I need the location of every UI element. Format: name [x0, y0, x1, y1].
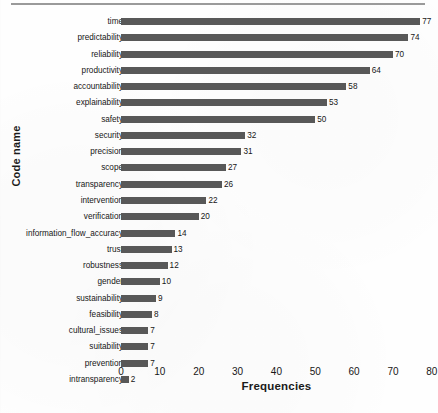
- bar-row: explainability53: [0, 96, 438, 109]
- bar-value-label: 50: [317, 113, 326, 126]
- x-axis-tick-label: 80: [412, 366, 438, 377]
- category-label: explainability: [0, 96, 123, 109]
- bar: [121, 18, 420, 25]
- bar-row: gender10: [0, 275, 438, 288]
- category-label: sustainability: [0, 292, 123, 305]
- bar-row: safety50: [0, 113, 438, 126]
- category-label: productivity: [0, 64, 123, 77]
- bar: [121, 262, 168, 269]
- category-label: robustness: [0, 259, 123, 272]
- bar-value-label: 10: [162, 275, 171, 288]
- plot-area: time77predictability74reliability70produ…: [0, 0, 438, 413]
- bar-row: productivity64: [0, 64, 438, 77]
- bar-row: feasibility8: [0, 308, 438, 321]
- bar-value-label: 26: [224, 178, 233, 191]
- category-label: trust: [0, 243, 123, 256]
- category-label: predictability: [0, 31, 123, 44]
- bar-value-label: 64: [372, 64, 381, 77]
- bar-row: security32: [0, 129, 438, 142]
- bar: [121, 148, 241, 155]
- bar-value-label: 9: [158, 292, 163, 305]
- category-label: safety: [0, 113, 123, 126]
- x-axis-tick-label: 60: [334, 366, 374, 377]
- bar: [121, 164, 226, 171]
- bar: [121, 181, 222, 188]
- bar: [121, 278, 160, 285]
- bar-value-label: 27: [228, 161, 237, 174]
- bar-value-label: 58: [348, 80, 357, 93]
- bar-row: scope27: [0, 161, 438, 174]
- category-label: gender: [0, 275, 123, 288]
- bar: [121, 213, 199, 220]
- bar-value-label: 14: [177, 227, 186, 240]
- bar: [121, 343, 148, 350]
- bar-value-label: 70: [395, 48, 404, 61]
- bar-row: predictability74: [0, 31, 438, 44]
- category-label: precision: [0, 145, 123, 158]
- bar-value-label: 7: [150, 340, 155, 353]
- bar: [121, 246, 172, 253]
- bar-row: reliability70: [0, 48, 438, 61]
- category-label: scope: [0, 161, 123, 174]
- bar-value-label: 12: [170, 259, 179, 272]
- x-axis-tick-label: 10: [140, 366, 180, 377]
- x-axis-tick-label: 20: [179, 366, 219, 377]
- category-label: reliability: [0, 48, 123, 61]
- bar: [121, 327, 148, 334]
- category-label: verification: [0, 210, 123, 223]
- bar-row: robustness12: [0, 259, 438, 272]
- category-label: information_flow_accuracy: [0, 227, 123, 240]
- bar-value-label: 22: [208, 194, 217, 207]
- bar-row: cultural_issues7: [0, 324, 438, 337]
- bar: [121, 51, 393, 58]
- bar: [121, 116, 315, 123]
- bar-row: trust13: [0, 243, 438, 256]
- bar-row: precision31: [0, 145, 438, 158]
- category-label: suitability: [0, 340, 123, 353]
- bar: [121, 67, 370, 74]
- bar-row: verification20: [0, 210, 438, 223]
- category-label: accountability: [0, 80, 123, 93]
- bar: [121, 83, 346, 90]
- bar: [121, 230, 175, 237]
- bar: [121, 99, 327, 106]
- x-axis-tick-label: 70: [373, 366, 413, 377]
- bar-value-label: 20: [201, 210, 210, 223]
- bar: [121, 132, 245, 139]
- bar-value-label: 8: [154, 308, 159, 321]
- bar-value-label: 13: [174, 243, 183, 256]
- category-label: time: [0, 15, 123, 28]
- category-label: feasibility: [0, 308, 123, 321]
- category-label: cultural_issues: [0, 324, 123, 337]
- bar-value-label: 7: [150, 324, 155, 337]
- x-axis-tick-label: 0: [101, 366, 141, 377]
- x-axis-tick-label: 30: [218, 366, 258, 377]
- x-axis-tick-label: 50: [295, 366, 335, 377]
- bar-row: suitability7: [0, 340, 438, 353]
- bar-row: time77: [0, 15, 438, 28]
- category-label: intervention: [0, 194, 123, 207]
- bar-value-label: 74: [410, 31, 419, 44]
- bar: [121, 311, 152, 318]
- bar-value-label: 32: [247, 129, 256, 142]
- bar: [121, 197, 206, 204]
- bar-row: information_flow_accuracy14: [0, 227, 438, 240]
- bar-row: intervention22: [0, 194, 438, 207]
- bar-value-label: 31: [243, 145, 252, 158]
- bar: [121, 34, 408, 41]
- bar-value-label: 53: [329, 96, 338, 109]
- bar-row: accountability58: [0, 80, 438, 93]
- x-axis-tick-label: 40: [256, 366, 296, 377]
- bar: [121, 295, 156, 302]
- bar-row: transparency26: [0, 178, 438, 191]
- bar-chart-figure: Code name time77predictability74reliabil…: [0, 0, 438, 413]
- category-label: security: [0, 129, 123, 142]
- category-label: transparency: [0, 178, 123, 191]
- x-axis-label: Frequencies: [121, 380, 432, 392]
- bar-value-label: 77: [422, 15, 431, 28]
- bar-row: sustainability9: [0, 292, 438, 305]
